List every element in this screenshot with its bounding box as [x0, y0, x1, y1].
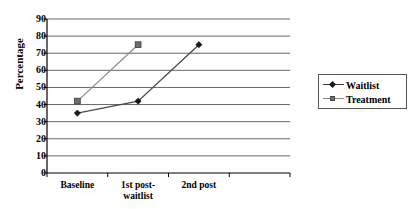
data-point-waitlist — [74, 110, 80, 116]
data-point-treatment — [74, 98, 80, 104]
treatment-marker-icon — [323, 93, 344, 105]
legend-item-treatment[interactable]: Treatment — [323, 92, 406, 106]
legend-label-waitlist: Waitlist — [344, 80, 379, 91]
x-tick-label: 2nd post — [159, 180, 239, 191]
x-axis-tick-labels: Baseline1st post- waitlist2nd post — [0, 176, 300, 209]
legend-label-treatment: Treatment — [344, 94, 391, 105]
waitlist-marker-icon — [323, 79, 344, 91]
line-chart: Percentage 9080706050403020100 Baseline1… — [0, 0, 412, 209]
chart-legend: Waitlist Treatment — [318, 74, 407, 109]
data-point-treatment — [135, 42, 141, 48]
legend-item-waitlist[interactable]: Waitlist — [323, 78, 406, 92]
